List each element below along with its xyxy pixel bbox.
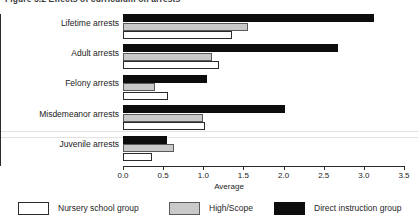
legend-item[interactable]: Direct instruction group <box>274 197 401 219</box>
x-axis-tick <box>404 166 405 170</box>
legend-swatch-gray <box>169 202 200 215</box>
legend-item[interactable]: High/Scope <box>169 197 253 219</box>
bar <box>123 75 207 83</box>
figure-title: Figure 5.2 Effects of curriculum on arre… <box>5 0 180 4</box>
bar <box>123 153 152 161</box>
x-axis-tick <box>284 166 285 170</box>
x-axis-tick-label: 1.0 <box>198 171 209 180</box>
legend-label: Nursery school group <box>58 203 139 213</box>
x-axis-tick-label: 2.5 <box>318 171 329 180</box>
x-axis-tick <box>163 166 164 170</box>
bar <box>123 114 203 122</box>
legend-label: High/Scope <box>209 203 253 213</box>
bar <box>123 144 174 152</box>
x-axis-tick-label: 1.5 <box>238 171 249 180</box>
x-axis-tick-label: 0.5 <box>158 171 169 180</box>
category-label: Adult arrests <box>0 48 119 58</box>
category-label: Lifetime arrests <box>0 18 119 28</box>
bar <box>123 14 374 22</box>
x-axis-tick-label: 2.0 <box>278 171 289 180</box>
category-label: Misdemeanor arrests <box>0 109 119 119</box>
legend-swatch-black <box>274 202 305 215</box>
legend-swatch-white <box>18 202 49 215</box>
legend-label: Direct instruction group <box>314 203 401 213</box>
bar <box>123 92 168 100</box>
figure-container: Figure 5.2 Effects of curriculum on arre… <box>0 0 418 223</box>
bar <box>123 31 232 39</box>
x-axis-title: Average <box>0 182 418 191</box>
x-axis-tick <box>324 166 325 170</box>
x-axis-line <box>123 166 405 167</box>
bar <box>123 122 205 130</box>
bar <box>123 83 155 91</box>
x-axis-tick <box>123 166 124 170</box>
x-axis-tick-label: 3.0 <box>358 171 369 180</box>
x-axis-tick <box>243 166 244 170</box>
x-axis-tick <box>203 166 204 170</box>
legend-item[interactable]: Nursery school group <box>18 197 139 219</box>
x-axis-tick-label: 0.0 <box>117 171 128 180</box>
bar <box>123 61 219 69</box>
bar <box>123 53 212 61</box>
bar <box>123 136 167 144</box>
chart-legend: Nursery school groupHigh/ScopeDirect ins… <box>0 197 418 221</box>
category-label: Felony arrests <box>0 78 119 88</box>
x-axis-title-text: Average <box>214 182 244 191</box>
bar <box>123 44 338 52</box>
scan-artifact-line <box>0 131 418 132</box>
category-label: Juvenile arrests <box>0 139 119 149</box>
bar <box>123 105 285 113</box>
bar <box>123 23 248 31</box>
x-axis-tick-label: 3.5 <box>398 171 409 180</box>
x-axis-tick <box>364 166 365 170</box>
